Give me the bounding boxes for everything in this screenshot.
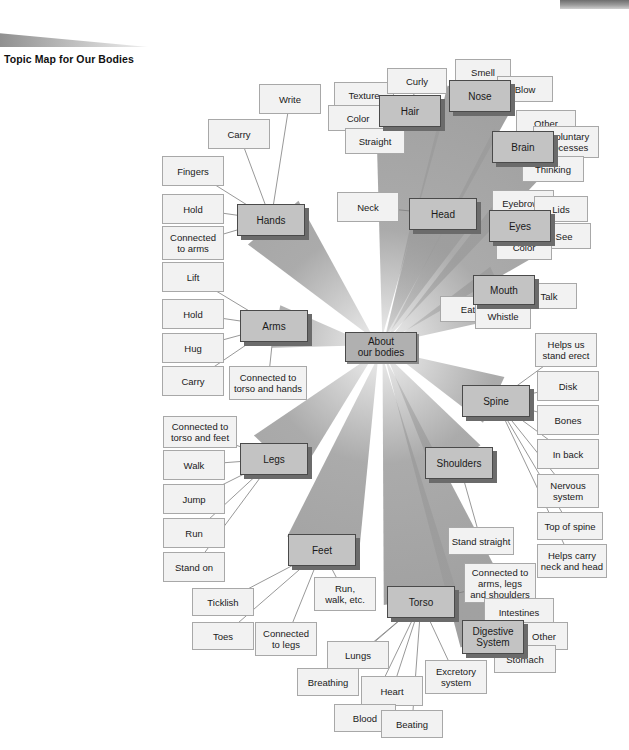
leaf-node-connected-to-torso-and-feet[interactable]: Connected totorso and feet bbox=[163, 416, 237, 448]
leaf-node-helps-carry-neck-and-head[interactable]: Helps carryneck and head bbox=[537, 544, 607, 578]
leaf-node-hold[interactable]: Hold bbox=[162, 194, 224, 224]
leaf-node-lift[interactable]: Lift bbox=[162, 262, 224, 292]
leaf-node-walk[interactable]: Walk bbox=[163, 450, 225, 480]
leaf-node-connected-to-legs[interactable]: Connectedto legs bbox=[255, 622, 317, 656]
leaf-node-run[interactable]: Run bbox=[163, 518, 225, 548]
leaf-node-heart[interactable]: Heart bbox=[361, 676, 423, 706]
leaf-node-hug[interactable]: Hug bbox=[162, 333, 224, 363]
leaf-node-ticklish[interactable]: Ticklish bbox=[192, 588, 254, 616]
leaf-node-helps-us-stand-erect[interactable]: Helps usstand erect bbox=[535, 333, 597, 367]
branch-node-nose[interactable]: Nose bbox=[449, 80, 511, 112]
leaf-node-nervous-system[interactable]: Nervoussystem bbox=[537, 474, 599, 508]
branch-node-brain[interactable]: Brain bbox=[492, 131, 554, 163]
leaf-node-carry[interactable]: Carry bbox=[162, 366, 224, 396]
branch-node-digestive-system[interactable]: DigestiveSystem bbox=[462, 620, 524, 654]
leaf-node-connected-to-torso-and-hands[interactable]: Connected totorso and hands bbox=[229, 366, 307, 400]
branch-node-spine[interactable]: Spine bbox=[462, 385, 530, 417]
leaf-node-top-of-spine[interactable]: Top of spine bbox=[537, 512, 603, 540]
branch-node-arms[interactable]: Arms bbox=[240, 310, 308, 342]
leaf-node-connected-to-arms-legs-and-shoulders[interactable]: Connected toarms, legsand shoulders bbox=[464, 563, 536, 603]
leaf-node-curly[interactable]: Curly bbox=[387, 68, 447, 94]
branch-node-legs[interactable]: Legs bbox=[240, 443, 308, 475]
leaf-node-straight[interactable]: Straight bbox=[345, 128, 405, 154]
branch-node-hair[interactable]: Hair bbox=[379, 95, 441, 127]
branch-node-hands[interactable]: Hands bbox=[237, 204, 305, 236]
branch-node-shoulders[interactable]: Shoulders bbox=[425, 447, 493, 479]
leaf-node-excretory-system[interactable]: Excretorysystem bbox=[425, 660, 487, 694]
leaf-node-toes[interactable]: Toes bbox=[192, 622, 254, 650]
leaf-node-lungs[interactable]: Lungs bbox=[327, 641, 389, 669]
leaf-node-stand-straight[interactable]: Stand straight bbox=[448, 527, 514, 555]
leaf-node-in-back[interactable]: In back bbox=[537, 439, 599, 469]
leaf-node-beating[interactable]: Beating bbox=[381, 710, 443, 738]
leaf-node-neck[interactable]: Neck bbox=[337, 192, 399, 222]
branch-node-head[interactable]: Head bbox=[409, 198, 477, 230]
leaf-node-fingers[interactable]: Fingers bbox=[162, 156, 224, 186]
branch-node-torso[interactable]: Torso bbox=[387, 586, 455, 618]
leaf-node-breathing[interactable]: Breathing bbox=[297, 668, 359, 696]
leaf-node-carry[interactable]: Carry bbox=[208, 119, 270, 149]
topic-map-canvas: Topic Map for Our Bodies WriteCarryFinge… bbox=[0, 0, 629, 750]
leaf-node-disk[interactable]: Disk bbox=[537, 371, 599, 401]
leaf-node-stand-on[interactable]: Stand on bbox=[163, 552, 225, 582]
header-accent-bar bbox=[560, 0, 629, 9]
branch-node-mouth[interactable]: Mouth bbox=[473, 275, 535, 305]
leaf-node-hold[interactable]: Hold bbox=[162, 299, 224, 329]
page-title: Topic Map for Our Bodies bbox=[4, 53, 134, 65]
leaf-node-whistle[interactable]: Whistle bbox=[475, 303, 531, 329]
center-node[interactable]: Aboutour bodies bbox=[345, 332, 417, 362]
branch-node-eyes[interactable]: Eyes bbox=[489, 210, 551, 242]
leaf-node-connected-to-arms[interactable]: Connectedto arms bbox=[162, 226, 224, 260]
branch-node-feet[interactable]: Feet bbox=[288, 534, 356, 566]
leaf-node-run-walk-etc[interactable]: Run,walk, etc. bbox=[314, 577, 376, 611]
leaf-node-jump[interactable]: Jump bbox=[163, 484, 225, 514]
leaf-node-write[interactable]: Write bbox=[259, 84, 321, 114]
leaf-node-bones[interactable]: Bones bbox=[537, 405, 599, 435]
